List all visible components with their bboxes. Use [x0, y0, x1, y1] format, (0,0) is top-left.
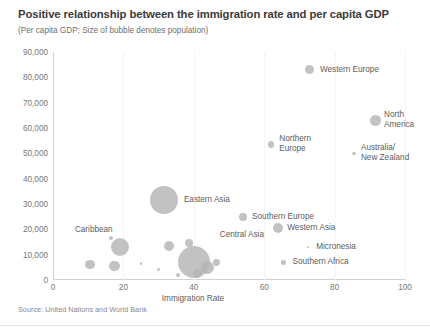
data-point-label: Southern Europe — [252, 212, 314, 222]
gridline-vertical — [264, 52, 265, 280]
y-axis-tick-label: 30,000 — [23, 200, 48, 209]
data-bubble[interactable] — [111, 238, 129, 256]
data-point-label: Western Europe — [320, 65, 379, 75]
data-bubble[interactable] — [213, 259, 220, 266]
data-bubble[interactable] — [352, 152, 355, 155]
source-note: Source: United Nations and World Bank — [18, 305, 147, 314]
x-axis-tick-label: 100 — [398, 283, 412, 292]
x-axis-tick-label: 40 — [189, 283, 198, 292]
data-bubble[interactable] — [281, 260, 286, 265]
y-axis-tick-label: 20,000 — [23, 225, 48, 234]
x-axis-tick-label: 80 — [330, 283, 339, 292]
x-axis-label: Immigration Rate — [162, 294, 224, 303]
data-bubble[interactable] — [239, 213, 247, 221]
y-axis-tick-label: 70,000 — [23, 98, 48, 107]
data-point-label: Northern Europe — [279, 134, 311, 153]
y-axis-tick-label: 10,000 — [23, 250, 48, 259]
chart-title: Positive relationship between the immigr… — [18, 8, 389, 20]
bubble-chart: Positive relationship between the immigr… — [0, 0, 430, 331]
data-point-label: North America — [384, 110, 430, 129]
y-axis-tick-label: 50,000 — [23, 149, 48, 158]
y-axis-tick-label: 60,000 — [23, 124, 48, 133]
data-bubble[interactable] — [85, 260, 94, 269]
data-point-label: Caribbean — [75, 225, 113, 235]
data-point-label: Western Asia — [287, 223, 335, 233]
data-bubble[interactable] — [268, 141, 274, 147]
x-axis-tick-label: 60 — [260, 283, 269, 292]
gridline-vertical — [405, 52, 406, 280]
data-point-label: Southern Africa — [293, 257, 349, 267]
x-axis-tick-label: 20 — [119, 283, 128, 292]
y-axis-tick-label: 0 — [43, 276, 48, 285]
data-bubble[interactable] — [185, 239, 193, 247]
x-axis-tick-label: 0 — [51, 283, 56, 292]
data-bubble[interactable] — [193, 269, 202, 278]
y-axis-tick-label: 90,000 — [23, 48, 48, 57]
data-bubble[interactable] — [150, 186, 178, 214]
data-bubble[interactable] — [370, 115, 381, 126]
y-axis-tick-label: 40,000 — [23, 174, 48, 183]
footer-divider — [0, 325, 430, 326]
data-point-label: Micronesia — [316, 242, 356, 252]
data-point-label: Australia/ New Zealand — [361, 143, 409, 162]
chart-subtitle: (Per capita GDP; Size of bubble denotes … — [18, 26, 208, 35]
data-bubble[interactable] — [109, 261, 119, 271]
y-axis-tick-label: 80,000 — [23, 73, 48, 82]
data-bubble[interactable] — [176, 273, 180, 277]
data-point-label: Eastern Asia — [184, 195, 230, 205]
data-point-label: Central Asia — [220, 230, 264, 240]
